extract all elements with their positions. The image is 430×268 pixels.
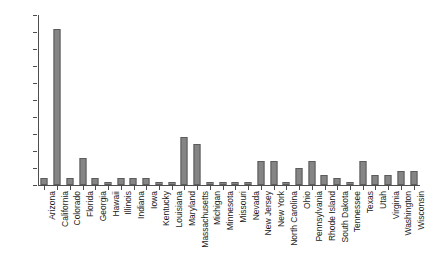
- x-tick-label: North Carolina: [290, 191, 299, 246]
- x-tick-mark: [312, 186, 313, 190]
- bar-slot: [153, 15, 166, 185]
- bar-slot: [229, 15, 242, 185]
- x-tick-mark: [70, 186, 71, 190]
- bar[interactable]: [92, 178, 99, 185]
- bar-slot: [280, 15, 293, 185]
- x-tick-label: Massachusetts: [201, 191, 210, 248]
- x-tick-label: Louisiana: [175, 191, 184, 227]
- bar-slot: [331, 15, 344, 185]
- bar-slot: [76, 15, 89, 185]
- x-tick-mark: [337, 186, 338, 190]
- x-tick-mark: [121, 186, 122, 190]
- bar-slot: [178, 15, 191, 185]
- bar-slot: [369, 15, 382, 185]
- bar-slot: [305, 15, 318, 185]
- bar-slot: [407, 15, 420, 185]
- bar[interactable]: [41, 178, 48, 185]
- x-tick-label: Texas: [366, 191, 375, 213]
- bar[interactable]: [54, 29, 61, 185]
- x-tick-mark: [134, 186, 135, 190]
- y-tick-mark: [33, 49, 37, 50]
- x-tick-mark: [299, 186, 300, 190]
- x-tick-label: Missouri: [239, 191, 248, 223]
- x-tick-label: Iowa: [150, 191, 159, 209]
- y-tick-mark: [33, 185, 37, 186]
- bar-slot: [63, 15, 76, 185]
- bar[interactable]: [66, 178, 73, 185]
- bar[interactable]: [359, 161, 366, 185]
- bar[interactable]: [232, 182, 239, 185]
- y-tick-mark: [33, 117, 37, 118]
- bar-slot: [267, 15, 280, 185]
- bar[interactable]: [283, 182, 290, 185]
- x-tick-label: Pennsylvania: [315, 191, 324, 242]
- bar[interactable]: [334, 178, 341, 185]
- x-tick-label: Washington: [404, 191, 413, 236]
- x-tick-label: Georgia: [99, 191, 108, 221]
- x-tick-label: Michigan: [213, 191, 222, 225]
- bar[interactable]: [194, 144, 201, 185]
- x-tick-label: Ohio: [303, 191, 312, 209]
- x-tick-label: Illinois: [124, 191, 133, 215]
- x-tick-mark: [172, 186, 173, 190]
- bar[interactable]: [105, 182, 112, 185]
- x-tick-mark: [184, 186, 185, 190]
- bar[interactable]: [410, 171, 417, 185]
- bar-slot: [242, 15, 255, 185]
- bar[interactable]: [206, 182, 213, 185]
- bar[interactable]: [308, 161, 315, 185]
- x-tick-mark: [363, 186, 364, 190]
- x-tick-mark: [261, 186, 262, 190]
- bar-slot: [204, 15, 217, 185]
- x-tick-mark: [375, 186, 376, 190]
- x-tick-label: Nevada: [252, 191, 261, 220]
- x-tick-label: Virginia: [392, 191, 401, 219]
- bar[interactable]: [168, 182, 175, 185]
- x-axis-labels: ArizonaCaliforniaColoradoFloridaGeorgiaH…: [38, 191, 420, 261]
- x-tick-mark: [325, 186, 326, 190]
- bar[interactable]: [219, 182, 226, 185]
- bar-slot: [356, 15, 369, 185]
- x-tick-label: Utah: [379, 191, 388, 209]
- bar-slot: [254, 15, 267, 185]
- bar[interactable]: [130, 178, 137, 185]
- bar[interactable]: [397, 171, 404, 185]
- bar-slot: [382, 15, 395, 185]
- x-tick-mark: [223, 186, 224, 190]
- bar[interactable]: [155, 182, 162, 185]
- bar-slot: [114, 15, 127, 185]
- x-tick-label: Florida: [86, 191, 95, 217]
- bar[interactable]: [270, 161, 277, 185]
- bar[interactable]: [385, 175, 392, 185]
- x-tick-label: Minnesota: [226, 191, 235, 230]
- bar[interactable]: [181, 137, 188, 185]
- bar-slot: [38, 15, 51, 185]
- y-tick-mark: [33, 15, 37, 16]
- y-tick-mark: [33, 66, 37, 67]
- bar[interactable]: [143, 178, 150, 185]
- y-tick-mark: [33, 83, 37, 84]
- bar-chart: 05101520253035404550 ArizonaCaliforniaCo…: [0, 0, 430, 268]
- bar[interactable]: [245, 182, 252, 185]
- x-tick-label: Arizona: [48, 191, 57, 220]
- bar[interactable]: [79, 158, 86, 185]
- bar-series: [38, 15, 420, 185]
- bar[interactable]: [321, 175, 328, 185]
- bar[interactable]: [257, 161, 264, 185]
- x-tick-mark: [388, 186, 389, 190]
- bar[interactable]: [117, 178, 124, 185]
- x-tick-mark: [350, 186, 351, 190]
- bar-slot: [102, 15, 115, 185]
- bar-slot: [89, 15, 102, 185]
- x-tick-label: Rhode Island: [328, 191, 337, 241]
- bar[interactable]: [296, 168, 303, 185]
- x-tick-mark: [146, 186, 147, 190]
- x-tick-label: Tennessee: [353, 191, 362, 232]
- x-tick-label: Colorado: [73, 191, 82, 226]
- y-tick-mark: [33, 32, 37, 33]
- bar-slot: [344, 15, 357, 185]
- x-tick-mark: [210, 186, 211, 190]
- bar[interactable]: [372, 175, 379, 185]
- bar-slot: [127, 15, 140, 185]
- bar[interactable]: [346, 182, 353, 185]
